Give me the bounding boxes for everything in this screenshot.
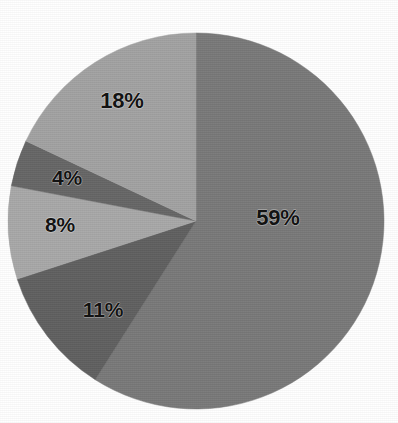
slice-label-8: 8% — [45, 213, 75, 237]
slice-label-59: 59% — [256, 205, 299, 231]
slice-label-4: 4% — [52, 166, 82, 190]
slice-label-18: 18% — [100, 88, 143, 114]
slice-label-11: 11% — [83, 298, 123, 322]
pie-chart-canvas — [0, 0, 398, 423]
pie-chart: 59% 11% 8% 4% 18% — [0, 0, 398, 423]
